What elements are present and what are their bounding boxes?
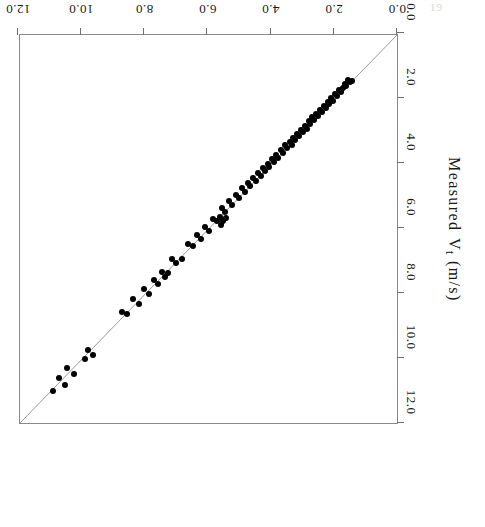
data-point xyxy=(198,236,204,242)
x-tick-label: 4.0 xyxy=(251,1,291,17)
data-point xyxy=(141,286,147,292)
page-number-remnant: 19 xyxy=(430,1,443,13)
data-point xyxy=(162,274,168,280)
y-tick-label: 12.0 xyxy=(403,381,419,423)
data-point xyxy=(250,175,256,181)
x-tick xyxy=(270,28,271,35)
data-point xyxy=(136,301,142,307)
data-point xyxy=(62,382,68,388)
data-point xyxy=(185,241,191,247)
data-point xyxy=(82,356,88,362)
data-point xyxy=(90,352,96,358)
scatter-markers xyxy=(20,35,397,423)
x-tick-label: 2.0 xyxy=(314,1,354,17)
data-point xyxy=(194,232,200,238)
data-point xyxy=(278,147,284,153)
data-point xyxy=(255,170,261,176)
y-tick-label: 2.0 xyxy=(403,56,419,98)
y-axis-title-unit: (m/s) xyxy=(447,261,464,302)
data-point xyxy=(260,165,266,171)
x-tick-label: 10.0 xyxy=(61,1,101,17)
data-point xyxy=(56,375,62,381)
plot-area: 0.02.04.06.08.010.012.0 0.02.04.06.08.01… xyxy=(19,34,398,424)
data-point xyxy=(146,291,152,297)
y-tick-label: 6.0 xyxy=(403,186,419,228)
x-tick-label: 12.0 xyxy=(0,1,38,17)
y-axis-title-subscript: t xyxy=(444,251,456,254)
x-tick xyxy=(143,28,144,35)
y-tick-label: 0.0 xyxy=(403,0,419,33)
x-tick xyxy=(80,28,81,35)
figure-canvas: 0.02.04.06.08.010.012.0 0.02.04.06.08.01… xyxy=(0,0,485,527)
data-point xyxy=(85,347,91,353)
data-point xyxy=(71,371,77,377)
x-tick xyxy=(207,28,208,35)
data-point xyxy=(119,309,125,315)
data-point xyxy=(202,224,208,230)
data-point xyxy=(233,192,239,198)
y-axis-title: MeasuredVt(m/s) xyxy=(444,34,464,424)
x-tick-label: 6.0 xyxy=(188,1,228,17)
y-tick-label: 8.0 xyxy=(403,251,419,293)
data-point xyxy=(130,297,136,303)
y-tick-label: 4.0 xyxy=(403,121,419,163)
x-tick xyxy=(17,28,18,35)
data-point xyxy=(159,269,165,275)
data-point xyxy=(179,256,185,262)
y-axis-title-pre: Measured xyxy=(447,157,464,231)
y-tick-label: 10.0 xyxy=(403,316,419,358)
x-tick xyxy=(333,28,334,35)
y-axis-title-symbol: V xyxy=(447,238,464,251)
x-tick-label: 8.0 xyxy=(124,1,164,17)
data-point xyxy=(124,311,130,317)
data-point xyxy=(50,388,56,394)
data-point xyxy=(64,365,70,371)
